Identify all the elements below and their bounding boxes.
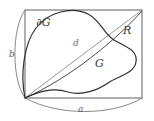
region-label: G (95, 58, 104, 69)
side-a-label: a (78, 105, 83, 114)
figure-canvas (0, 0, 154, 121)
rectangle-label: R (123, 25, 131, 36)
diagonal-label: d (73, 39, 79, 48)
side-b-label: b (9, 50, 15, 59)
boundary-label: ∂G (36, 17, 50, 28)
side-a-arc (25, 98, 142, 112)
geometry-figure: ∂G R G d b a (0, 0, 154, 121)
